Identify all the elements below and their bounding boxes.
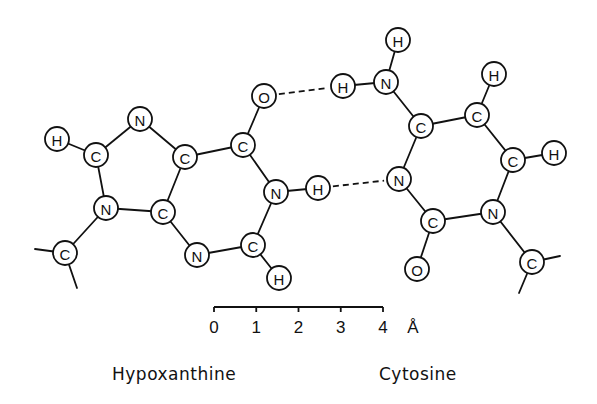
scale-tick-label: 3: [336, 318, 345, 337]
scale-bar: 01234Å: [209, 307, 419, 337]
atom-symbol: C: [180, 150, 191, 167]
atom-symbol: N: [192, 248, 203, 265]
atom-c: C: [241, 233, 265, 257]
atom-symbol: C: [248, 238, 259, 255]
atom-n: N: [128, 107, 152, 131]
atom-c: C: [151, 200, 175, 224]
atom-symbol: N: [101, 201, 112, 218]
hypoxanthine-label: Hypoxanthine: [112, 364, 236, 384]
atom-symbol: C: [238, 138, 249, 155]
atom-h: H: [386, 28, 410, 52]
base-pair-diagram: HCNCCONCNCHNHCHNHCCHCHNCNOC 01234Å: [0, 0, 597, 404]
atom-symbol: C: [91, 148, 102, 165]
atom-symbol: H: [393, 33, 404, 50]
scale-tick-label: 2: [294, 318, 303, 337]
atom-symbol: H: [274, 271, 285, 288]
cytosine-label: Cytosine: [379, 364, 457, 384]
atom-symbol: N: [394, 172, 405, 189]
atom-symbol: H: [549, 146, 560, 163]
atom-n: N: [481, 200, 505, 224]
hydrogen-bonds: [279, 88, 384, 186]
atom-c: C: [501, 148, 525, 172]
atom-h: H: [267, 266, 291, 290]
atom-symbol: C: [60, 246, 71, 263]
atom-n: N: [264, 180, 288, 204]
atom-c: C: [465, 103, 489, 127]
atom-h: H: [45, 127, 69, 151]
atom-o: O: [252, 84, 276, 108]
atom-symbol: C: [472, 108, 483, 125]
atom-symbol: H: [338, 79, 349, 96]
hydrogen-bond: [279, 88, 328, 94]
atom-symbol: N: [488, 205, 499, 222]
atom-n: N: [185, 243, 209, 267]
covalent-bonds: [35, 40, 560, 293]
atom-symbol: C: [416, 119, 427, 136]
scale-unit-label: Å: [407, 318, 419, 337]
atom-symbol: C: [508, 153, 519, 170]
atom-c: C: [53, 241, 77, 265]
atom-c: C: [231, 133, 255, 157]
atom-h: H: [482, 62, 506, 86]
atom-o: O: [405, 257, 429, 281]
atom-symbol: C: [527, 255, 538, 272]
scale-tick-label: 1: [252, 318, 261, 337]
hydrogen-bond: [333, 181, 384, 187]
atom-symbol: C: [158, 205, 169, 222]
atoms: HCNCCONCNCHNHCHNHCCHCHNCNOC: [45, 28, 566, 290]
atom-h: H: [306, 176, 330, 200]
atom-n: N: [374, 70, 398, 94]
scale-tick-label: 4: [378, 318, 387, 337]
atom-symbol: N: [381, 75, 392, 92]
atom-symbol: O: [258, 89, 270, 106]
scale-tick-label: 0: [209, 318, 218, 337]
atom-symbol: O: [411, 262, 423, 279]
atom-symbol: C: [428, 214, 439, 231]
atom-symbol: N: [135, 112, 146, 129]
atom-symbol: N: [271, 185, 282, 202]
atom-c: C: [409, 114, 433, 138]
atom-symbol: H: [489, 67, 500, 84]
atom-symbol: H: [313, 181, 324, 198]
atom-n: N: [94, 196, 118, 220]
atom-h: H: [331, 74, 355, 98]
atom-c: C: [173, 145, 197, 169]
atom-symbol: H: [52, 132, 63, 149]
atom-c: C: [520, 250, 544, 274]
atom-n: N: [387, 167, 411, 191]
atom-h: H: [542, 141, 566, 165]
atom-c: C: [421, 209, 445, 233]
atom-c: C: [84, 143, 108, 167]
